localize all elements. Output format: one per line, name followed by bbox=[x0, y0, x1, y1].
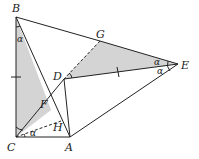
point-label-b: B bbox=[11, 2, 20, 15]
point-label-a: A bbox=[64, 141, 73, 154]
geometry-diagram: B C A D F H G E α α α α bbox=[0, 0, 199, 159]
segment-da bbox=[64, 79, 70, 137]
point-label-g: G bbox=[96, 28, 105, 41]
point-label-f: F bbox=[39, 98, 48, 111]
point-label-h: H bbox=[52, 121, 63, 134]
point-label-d: D bbox=[52, 70, 62, 83]
segment-bg bbox=[16, 17, 100, 41]
angle-label-b: α bbox=[17, 34, 23, 44]
point-label-e: E bbox=[180, 59, 189, 72]
angle-label-c: α bbox=[30, 128, 36, 138]
angle-label-e-lower: α bbox=[157, 66, 163, 76]
diagram-canvas: B C A D F H G E α α α α bbox=[0, 0, 199, 159]
point-label-c: C bbox=[7, 141, 16, 154]
